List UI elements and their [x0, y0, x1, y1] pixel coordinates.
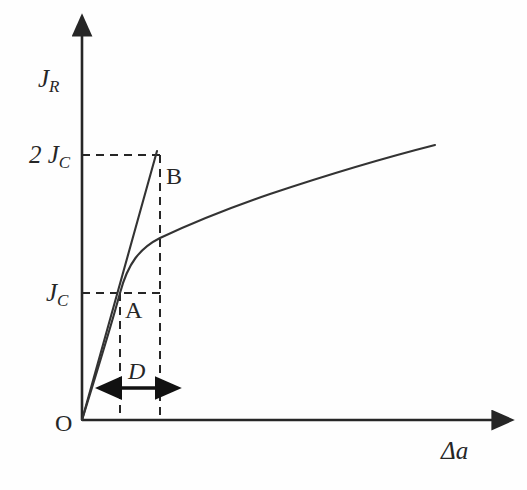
jr-delta-a-figure: JR 2 JC JC O Δa A B D	[0, 0, 527, 490]
x-axis-label: Δa	[441, 438, 468, 463]
y-tick-jc-subscript: C	[57, 291, 68, 310]
y-tick-2jc-main: 2 J	[29, 141, 59, 168]
y-tick-label-jc: JC	[46, 280, 68, 309]
dimension-d-label: D	[128, 359, 145, 383]
y-axis-label: JR	[38, 66, 60, 95]
y-axis-label-subscript: R	[49, 77, 59, 96]
origin-label: O	[55, 411, 72, 435]
point-a-label: A	[125, 298, 142, 322]
y-tick-label-2jc: 2 JC	[29, 142, 70, 171]
y-tick-2jc-subscript: C	[59, 153, 70, 172]
y-axis-label-main: J	[38, 65, 49, 92]
plot-canvas	[0, 0, 527, 490]
y-tick-jc-main: J	[46, 279, 57, 306]
point-b-label: B	[166, 164, 182, 188]
